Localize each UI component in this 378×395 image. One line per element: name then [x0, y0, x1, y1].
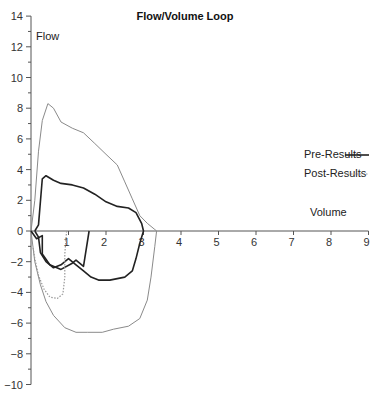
x-tick-label: 2: [101, 236, 107, 248]
x-tick-label: 8: [326, 236, 332, 248]
y-tick-label: −6: [10, 317, 23, 329]
x-tick-label: 9: [363, 236, 369, 248]
x-axis-title: Volume: [310, 206, 347, 218]
legend: Pre-Results Post-Results: [304, 148, 369, 179]
legend-label-post: Post-Results: [304, 167, 367, 179]
y-tick-label: −2: [10, 256, 23, 268]
y-tick-label: 14: [11, 10, 23, 22]
y-tick-label: 0: [17, 225, 23, 237]
axes: −10−8−6−4−202468101214123456789: [4, 10, 369, 390]
y-tick-label: 12: [11, 41, 23, 53]
series-predicted: [31, 104, 157, 333]
y-tick-label: 8: [17, 102, 23, 114]
x-tick-label: 6: [251, 236, 257, 248]
x-tick-label: 4: [176, 236, 182, 248]
legend-label-pre: Pre-Results: [304, 148, 362, 160]
y-tick-label: −4: [10, 286, 23, 298]
x-tick-label: 5: [213, 236, 219, 248]
y-tick-label: 10: [11, 72, 23, 84]
x-tick-label: 7: [288, 236, 294, 248]
y-tick-label: 6: [17, 133, 23, 145]
y-tick-label: 2: [17, 194, 23, 206]
chart-title: Flow/Volume Loop: [137, 10, 234, 22]
y-tick-label: −8: [10, 348, 23, 360]
y-tick-label: −10: [4, 379, 23, 391]
y-tick-label: 4: [17, 164, 23, 176]
series-pre-results: [35, 176, 144, 280]
series-lines: [31, 104, 157, 333]
flow-volume-chart: Flow/Volume Loop Flow Volume −10−8−6−4−2…: [0, 0, 378, 395]
y-axis-title: Flow: [36, 30, 59, 42]
